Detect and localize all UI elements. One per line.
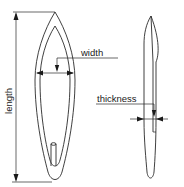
arrow-left-icon	[156, 117, 163, 122]
thickness-dimension: thickness	[96, 93, 168, 122]
width-dimension: width	[36, 47, 118, 76]
side-outer-outline	[144, 16, 158, 178]
width-leader-line	[57, 58, 118, 70]
arrow-right-icon	[67, 71, 74, 76]
width-label: width	[80, 47, 103, 58]
length-dimension: length	[3, 12, 55, 182]
measurement-diagram: length width thicknes	[0, 0, 184, 187]
arrow-right-icon	[137, 117, 144, 122]
front-view	[35, 12, 75, 180]
length-label: length	[3, 88, 14, 114]
front-outer-outline	[35, 12, 75, 180]
arrow-left-icon	[36, 71, 43, 76]
side-view	[144, 16, 158, 178]
thickness-label: thickness	[97, 93, 137, 104]
arrow-up-icon	[14, 12, 19, 20]
arrow-down-icon	[14, 174, 19, 182]
leader-arrow-icon	[152, 110, 156, 117]
thickness-leader-line	[96, 104, 154, 115]
side-ridge-line	[151, 16, 153, 62]
leader-arrow-icon	[55, 65, 59, 72]
rod	[51, 143, 56, 166]
